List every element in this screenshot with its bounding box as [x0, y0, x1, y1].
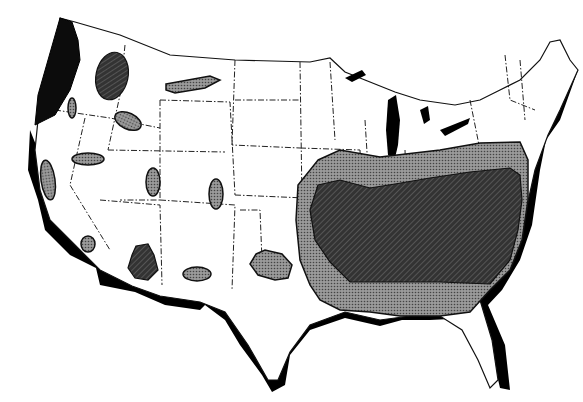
- zone-southern-california: [81, 236, 95, 252]
- zone-northern-nevada: [72, 153, 104, 165]
- us-map: [0, 0, 583, 402]
- zone-colorado: [209, 179, 223, 209]
- zone-utah: [146, 168, 160, 196]
- zone-eastern-oregon: [68, 98, 76, 118]
- zone-southeast-core: [310, 168, 522, 284]
- zone-new-mexico: [183, 267, 211, 281]
